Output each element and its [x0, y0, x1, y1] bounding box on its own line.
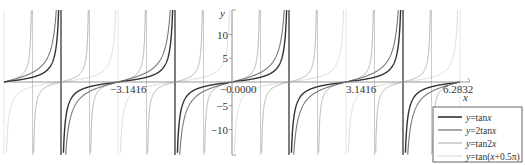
x-tick-label: −3.1416	[110, 83, 147, 95]
legend-label: y=tan2x	[465, 139, 497, 149]
y-axis-label: y	[219, 7, 225, 19]
x-tick-label: −0.0000	[220, 83, 257, 95]
tangent-function-plot: 105−5−10 −3.1416−0.00003.14166.2832 y x …	[0, 0, 525, 165]
y-tick-label: −5	[216, 100, 228, 112]
legend-label: y=2tanx	[465, 126, 497, 136]
legend: y=tanxy=2tanxy=tan2xy=tan(x+0.5π)	[433, 107, 522, 163]
y-tick-label: 10	[217, 29, 229, 41]
x-axis-label: x	[462, 91, 468, 103]
x-axis-end-cap	[468, 78, 470, 82]
x-tick-label: 6.2832	[443, 83, 473, 95]
legend-label: y=tanx	[465, 113, 492, 123]
legend-label: y=tan(x+0.5π)	[465, 152, 520, 163]
y-tick-label: −10	[211, 124, 229, 136]
y-tick-label: 5	[223, 52, 229, 64]
x-tick-label: 3.1416	[346, 83, 377, 95]
